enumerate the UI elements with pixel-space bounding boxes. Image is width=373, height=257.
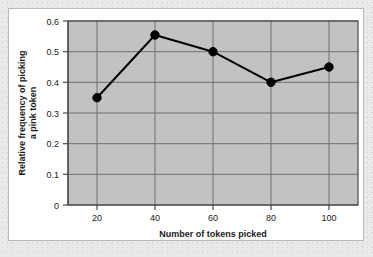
y-tick-label-0.2: 0.2 bbox=[46, 139, 59, 149]
line-chart: 0.6 0.5 0.4 0.3 0.2 0.1 0 20 40 60 80 10… bbox=[9, 9, 363, 240]
x-tick-label-20: 20 bbox=[92, 213, 102, 223]
x-tick-label-80: 80 bbox=[266, 213, 276, 223]
x-tick-label-60: 60 bbox=[208, 213, 218, 223]
y-tick-label-0: 0 bbox=[54, 201, 59, 211]
x-tick-label-40: 40 bbox=[150, 213, 160, 223]
y-tick-label-0.3: 0.3 bbox=[46, 109, 59, 119]
x-tick-label-100: 100 bbox=[321, 213, 336, 223]
y-tick-label-0.1: 0.1 bbox=[46, 170, 59, 180]
y-axis-title-line-2: a pink token bbox=[28, 87, 38, 140]
y-tick-label-0.5: 0.5 bbox=[46, 47, 59, 57]
x-axis-tickmarks bbox=[97, 205, 329, 210]
data-point-20 bbox=[93, 94, 101, 102]
y-axis-title-line-1: Relative frequency of picking bbox=[17, 50, 27, 175]
data-point-60 bbox=[209, 48, 217, 56]
data-point-80 bbox=[267, 78, 275, 86]
data-point-40 bbox=[151, 31, 159, 39]
y-axis-title: Relative frequency of picking a pink tok… bbox=[17, 50, 38, 175]
y-tick-label-0.4: 0.4 bbox=[46, 78, 59, 88]
data-point-100 bbox=[325, 63, 333, 71]
y-axis-tickmarks bbox=[63, 21, 68, 205]
x-axis-title: Number of tokens picked bbox=[159, 229, 267, 239]
chart-card: 0.6 0.5 0.4 0.3 0.2 0.1 0 20 40 60 80 10… bbox=[8, 8, 364, 241]
y-tick-label-0.6: 0.6 bbox=[46, 17, 59, 27]
